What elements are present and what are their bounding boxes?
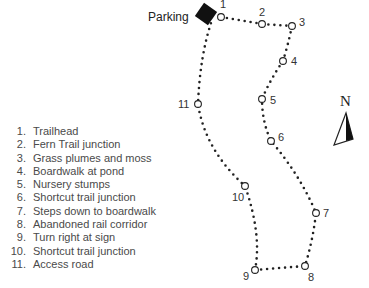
waypoint-label-4: 4	[291, 55, 297, 67]
waypoint-marker-3	[289, 23, 296, 30]
legend-label: Boardwalk at pond	[33, 165, 124, 178]
legend-label: Trailhead	[33, 125, 78, 138]
legend-number: 2.	[4, 138, 33, 151]
waypoint-label-5: 5	[270, 94, 276, 106]
legend-label: Access road	[33, 258, 94, 271]
waypoint-label-3: 3	[299, 16, 305, 28]
legend-item: 9.Turn right at sign	[4, 231, 156, 244]
legend-label: Shortcut trail junction	[33, 245, 136, 258]
legend-label: Abandoned rail corridor	[33, 218, 147, 231]
waypoint-marker-1	[218, 14, 225, 21]
legend-item: 10.Shortcut trail junction	[4, 245, 156, 258]
legend-label: Shortcut trail junction	[33, 191, 136, 204]
legend-number: 9.	[4, 231, 33, 244]
legend-item: 8.Abandoned rail corridor	[4, 218, 156, 231]
trail-path	[198, 17, 316, 270]
waypoint-legend: 1.Trailhead2.Fern Trail junction3.Grass …	[4, 125, 156, 271]
waypoint-marker-5	[259, 96, 266, 103]
legend-number: 6.	[4, 191, 33, 204]
waypoint-label-7: 7	[323, 207, 329, 219]
waypoint-marker-8	[302, 263, 309, 270]
legend-number: 8.	[4, 218, 33, 231]
waypoint-marker-2	[259, 21, 266, 28]
waypoint-label-8: 8	[308, 271, 314, 283]
waypoint-label-9: 9	[243, 270, 249, 282]
waypoint-marker-9	[252, 267, 259, 274]
parking-label: Parking	[148, 10, 189, 24]
waypoint-label-2: 2	[259, 6, 265, 18]
north-arrow-icon: N	[334, 93, 353, 145]
legend-item: 11.Access road	[4, 258, 156, 271]
parking-icon	[195, 3, 217, 25]
waypoint-marker-10	[242, 183, 249, 190]
waypoint-label-11: 11	[178, 98, 189, 110]
legend-number: 5.	[4, 178, 33, 191]
legend-label: Grass plumes and moss	[33, 152, 152, 165]
legend-item: 5.Nursery stumps	[4, 178, 156, 191]
legend-label: Nursery stumps	[33, 178, 110, 191]
waypoint-label-1: 1	[220, 0, 226, 10]
legend-label: Turn right at sign	[33, 231, 115, 244]
waypoint-marker-6	[268, 138, 275, 145]
waypoint-marker-4	[280, 58, 287, 65]
legend-number: 10.	[4, 245, 33, 258]
legend-label: Fern Trail junction	[33, 138, 120, 151]
waypoint-label-10: 10	[232, 191, 244, 203]
legend-item: 4.Boardwalk at pond	[4, 165, 156, 178]
legend-item: 6.Shortcut trail junction	[4, 191, 156, 204]
legend-item: 3.Grass plumes and moss	[4, 152, 156, 165]
waypoint-marker-7	[313, 210, 320, 217]
legend-number: 4.	[4, 165, 33, 178]
svg-text:N: N	[340, 93, 351, 109]
legend-item: 1.Trailhead	[4, 125, 156, 138]
legend-number: 7.	[4, 205, 33, 218]
waypoint-marker-11	[195, 101, 202, 108]
legend-item: 2.Fern Trail junction	[4, 138, 156, 151]
legend-number: 3.	[4, 152, 33, 165]
legend-label: Steps down to boardwalk	[33, 205, 156, 218]
legend-number: 1.	[4, 125, 33, 138]
legend-number: 11.	[4, 258, 33, 271]
waypoint-label-6: 6	[278, 131, 284, 143]
legend-item: 7.Steps down to boardwalk	[4, 205, 156, 218]
